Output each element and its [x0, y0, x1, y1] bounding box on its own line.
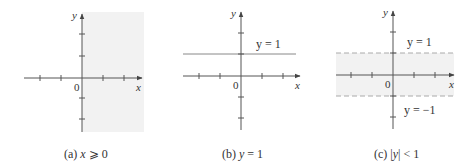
line-label-y-equals-neg1: y = −1 [404, 103, 436, 117]
panel-c: y x 0 y = 1 y = −1 (c) |y| < 1 [336, 6, 454, 161]
x-axis-label: x [448, 78, 454, 90]
panel-a: y x 0 (a) x ⩾ 0 [24, 9, 144, 161]
y-axis-label: y [382, 6, 388, 18]
caption-c: (c) |y| < 1 [374, 147, 419, 161]
shaded-region-x-nonneg [82, 12, 144, 132]
origin-label: 0 [233, 79, 239, 91]
caption-b: (b) y = 1 [222, 147, 263, 161]
line-label-y-equals-1: y = 1 [407, 35, 432, 49]
panel-b: y x 0 y = 1 (b) y = 1 [183, 7, 300, 161]
y-axis-label: y [71, 9, 77, 21]
x-axis-label: x [135, 81, 141, 93]
y-axis-label: y [230, 7, 236, 19]
x-axis-label: x [294, 79, 300, 91]
line-label-y-equals-1: y = 1 [256, 37, 281, 51]
origin-label: 0 [385, 78, 391, 90]
caption-a: (a) x ⩾ 0 [64, 147, 108, 161]
origin-label: 0 [74, 81, 80, 93]
figure: y x 0 (a) x ⩾ 0 y x 0 y = 1 (b) y = 1 [0, 0, 476, 167]
